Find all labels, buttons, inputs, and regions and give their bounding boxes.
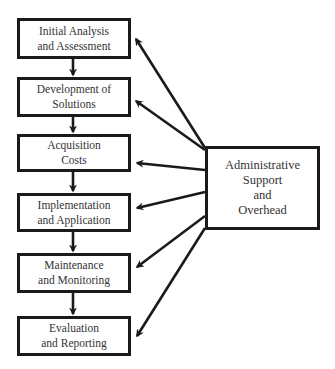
admin-label-line2: Support (243, 173, 283, 188)
support-arrow-2 (136, 101, 205, 150)
step-evaluation: Evaluation and Reporting (17, 316, 131, 356)
step-maintenance: Maintenance and Monitoring (17, 253, 131, 293)
step-label-line1: Implementation (38, 198, 111, 213)
step-implementation: Implementation and Application (17, 193, 131, 232)
step-label-line1: Maintenance (44, 258, 103, 273)
step-label-line1: Acquisition (47, 138, 101, 153)
step-label-line2: Costs (61, 153, 87, 168)
step-initial-analysis: Initial Analysis and Assessment (17, 18, 131, 59)
support-arrow-5 (137, 216, 205, 267)
step-label-line2: and Monitoring (38, 273, 110, 288)
admin-label-line4: Overhead (238, 203, 287, 218)
step-label-line1: Development of (37, 82, 111, 97)
admin-label-line3: and (253, 188, 271, 203)
step-label-line2: and Application (37, 213, 110, 228)
step-acquisition-costs: Acquisition Costs (17, 134, 131, 172)
support-arrow-4 (137, 192, 205, 208)
step-label-line2: Solutions (52, 97, 95, 112)
step-label-line1: Evaluation (49, 321, 99, 336)
step-label-line2: and Assessment (37, 39, 110, 54)
process-diagram: Initial Analysis and Assessment Developm… (0, 0, 335, 369)
step-label-line1: Initial Analysis (39, 24, 109, 39)
admin-label-line1: Administrative (225, 158, 300, 173)
support-arrow-1 (136, 39, 205, 148)
support-arrow-3 (137, 163, 205, 170)
step-development-of-solutions: Development of Solutions (17, 77, 131, 117)
admin-support-box: Administrative Support and Overhead (205, 146, 320, 230)
step-label-line2: and Reporting (41, 336, 106, 351)
support-arrow-6 (137, 228, 205, 336)
